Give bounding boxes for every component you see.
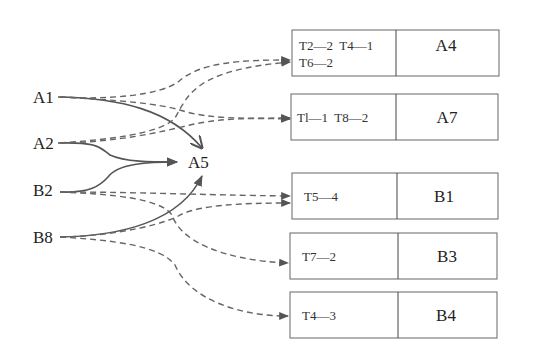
solid-edge-b2-to-a5 xyxy=(60,162,177,192)
source-node-b2: B2 xyxy=(33,181,53,200)
target-box-b1: T5—4 B1 xyxy=(292,173,498,219)
box-tag: T7—2 xyxy=(302,249,336,264)
dashed-edge-a2-to-a7 xyxy=(60,119,290,143)
box-name: A7 xyxy=(437,108,458,127)
box-name: B1 xyxy=(434,187,454,206)
target-box-a7: Tl—1 T8—2 A7 xyxy=(291,94,498,140)
source-node-b8: B8 xyxy=(33,228,53,247)
box-name: A4 xyxy=(436,36,457,55)
box-tag: T6—2 xyxy=(299,55,333,70)
hub-node-a5: A5 xyxy=(188,153,209,172)
solid-edge-a2-to-a5 xyxy=(58,143,177,162)
box-name: B3 xyxy=(437,247,457,266)
edges-layer xyxy=(58,60,290,316)
dashed-edge-a1-to-a7 xyxy=(60,97,290,118)
source-node-a1: A1 xyxy=(33,88,54,107)
solid-edge-b8-to-a5 xyxy=(60,176,202,237)
dashed-edge-b2-to-b3 xyxy=(60,192,288,263)
box-name: B4 xyxy=(436,306,456,325)
flow-diagram: T2—2 T4—1 T6—2 A4 Tl—1 T8—2 A7 T5—4 B1 T… xyxy=(0,0,533,360)
box-tag: T5—4 xyxy=(304,189,338,204)
target-box-a4: T2—2 T4—1 T6—2 A4 xyxy=(292,30,499,76)
solid-edge-a1-to-a5 xyxy=(58,97,202,148)
dashed-edge-b8-to-b4 xyxy=(60,237,288,316)
box-tag: T2—2 T4—1 xyxy=(299,38,373,53)
box-tag: T4—3 xyxy=(302,308,336,323)
source-node-a2: A2 xyxy=(33,134,54,153)
dashed-edge-a2-to-a4 xyxy=(60,62,290,143)
box-tag: Tl—1 T8—2 xyxy=(297,110,368,125)
target-box-b3: T7—2 B3 xyxy=(290,233,497,279)
target-box-b4: T4—3 B4 xyxy=(290,292,497,338)
